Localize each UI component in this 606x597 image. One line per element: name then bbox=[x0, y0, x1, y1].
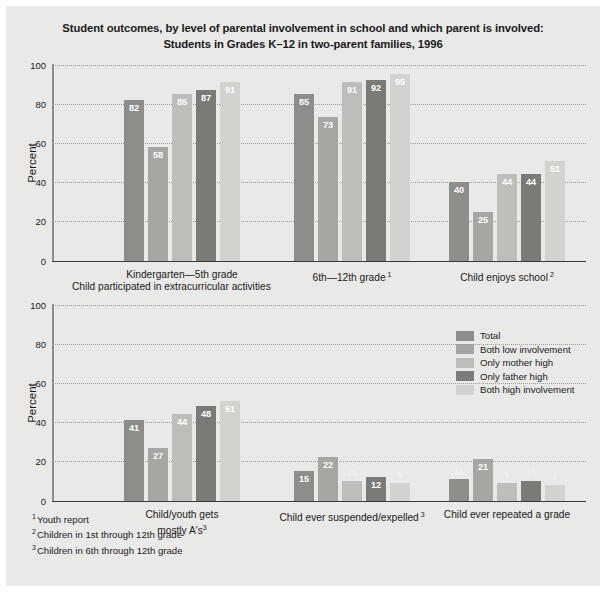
bar-value-label: 51 bbox=[545, 164, 565, 174]
legend-swatch bbox=[456, 385, 474, 395]
legend-label: Total bbox=[480, 330, 500, 341]
bar-value-label: 82 bbox=[124, 103, 144, 113]
y-axis-tick-label: 80 bbox=[35, 338, 46, 349]
bar: 8 bbox=[545, 485, 565, 501]
bar: 9 bbox=[497, 483, 517, 501]
bar-value-label: 21 bbox=[473, 462, 493, 472]
legend-label: Both low involvement bbox=[480, 344, 571, 355]
y-axis-tick-label: 0 bbox=[41, 255, 46, 266]
footnote-list: 1Youth report2Children in 1st through 12… bbox=[32, 511, 432, 557]
bar-value-label: 48 bbox=[196, 409, 216, 419]
bar: 85 bbox=[172, 94, 192, 261]
bar-value-label: 85 bbox=[294, 97, 314, 107]
legend-item: Only father high bbox=[456, 371, 574, 382]
bar-value-label: 12 bbox=[366, 480, 386, 490]
footnote-text: Children in 6th through 12th grade bbox=[37, 545, 183, 556]
bar: 48 bbox=[196, 406, 216, 500]
legend-item: Both low involvement bbox=[456, 344, 574, 355]
chart-legend: TotalBoth low involvementOnly mother hig… bbox=[456, 330, 574, 395]
footnote-marker: 1 bbox=[32, 513, 36, 520]
gridline bbox=[52, 65, 586, 66]
bar: 82 bbox=[124, 100, 144, 261]
x-axis-group-label: Child ever repeated a grade bbox=[444, 508, 570, 521]
bar-value-label: 25 bbox=[473, 215, 493, 225]
x-axis-group-label: 6th—12th grade 1 bbox=[313, 268, 392, 284]
bar: 25 bbox=[473, 212, 493, 261]
figure-page: Student outcomes, by level of parental i… bbox=[6, 6, 600, 586]
bar-value-label: 27 bbox=[148, 451, 168, 461]
footnote-text: Children in 1st through 12th grade bbox=[37, 530, 182, 541]
legend-swatch bbox=[456, 331, 474, 341]
bar-value-label: 41 bbox=[124, 423, 144, 433]
footnote-marker: 2 bbox=[32, 528, 36, 535]
gridline bbox=[52, 383, 586, 384]
x-axis-line-top bbox=[52, 261, 586, 263]
legend-swatch bbox=[456, 358, 474, 368]
bar-value-label: 8 bbox=[545, 472, 565, 482]
bar-value-label: 11 bbox=[449, 466, 469, 476]
footnote-marker: 3 bbox=[32, 544, 36, 551]
bar-value-label: 22 bbox=[318, 460, 338, 470]
bar-value-label: 15 bbox=[294, 474, 314, 484]
y-axis-tick-label: 20 bbox=[35, 456, 46, 467]
y-axis-tick-label: 60 bbox=[35, 377, 46, 388]
bar: 44 bbox=[497, 174, 517, 260]
footnote: 1Youth report bbox=[32, 511, 432, 526]
title-line-1: Student outcomes, by level of parental i… bbox=[6, 20, 600, 36]
y-axis-line-top bbox=[52, 64, 54, 262]
y-axis-tick-label: 60 bbox=[35, 137, 46, 148]
x-axis-group-label: Child enjoys school 2 bbox=[460, 268, 554, 284]
footnote: 2Children in 1st through 12th grade bbox=[32, 526, 432, 541]
y-axis-tick-label: 20 bbox=[35, 216, 46, 227]
y-axis-tick-label: 100 bbox=[30, 59, 46, 70]
y-axis-tick-label: 40 bbox=[35, 417, 46, 428]
bar: 95 bbox=[390, 74, 410, 260]
bar: 51 bbox=[545, 161, 565, 261]
bar: 44 bbox=[521, 174, 541, 260]
bar: 10 bbox=[521, 481, 541, 501]
bar: 22 bbox=[318, 457, 338, 500]
bar-value-label: 9 bbox=[497, 470, 517, 480]
legend-label: Only mother high bbox=[480, 357, 553, 368]
bar: 44 bbox=[172, 414, 192, 500]
bar-value-label: 58 bbox=[148, 150, 168, 160]
chart-panel-bottom: Percent TotalBoth low involvementOnly mo… bbox=[52, 304, 586, 502]
chart-caption: Child participated in extracurricular ac… bbox=[72, 281, 271, 292]
bar-value-label: 85 bbox=[172, 97, 192, 107]
bar: 27 bbox=[148, 448, 168, 501]
y-axis-tick-label: 80 bbox=[35, 98, 46, 109]
legend-item: Total bbox=[456, 330, 574, 341]
legend-swatch bbox=[456, 344, 474, 354]
legend-item: Both high involvement bbox=[456, 384, 574, 395]
title-line-2: Students in Grades K–12 in two-parent fa… bbox=[6, 36, 600, 52]
bar: 51 bbox=[220, 401, 240, 501]
plot-area-top: Percent 0204060801008258858791Kindergart… bbox=[52, 64, 586, 262]
bar-value-label: 91 bbox=[342, 85, 362, 95]
bar-value-label: 44 bbox=[172, 417, 192, 427]
bar-value-label: 44 bbox=[521, 177, 541, 187]
x-axis-group-label: Kindergarten—5th grade bbox=[126, 268, 238, 281]
bar: 87 bbox=[196, 90, 216, 261]
bar-value-label: 51 bbox=[220, 404, 240, 414]
bar: 41 bbox=[124, 420, 144, 500]
bar: 92 bbox=[366, 80, 386, 260]
bar-value-label: 10 bbox=[342, 468, 362, 478]
plot-area-bottom: Percent TotalBoth low involvementOnly mo… bbox=[52, 304, 586, 502]
bar: 21 bbox=[473, 459, 493, 500]
bar-value-label: 91 bbox=[220, 85, 240, 95]
y-axis-tick-label: 100 bbox=[30, 299, 46, 310]
bar: 15 bbox=[294, 471, 314, 500]
gridline bbox=[52, 305, 586, 306]
bar-value-label: 10 bbox=[521, 468, 541, 478]
legend-label: Only father high bbox=[480, 371, 548, 382]
bar-value-label: 92 bbox=[366, 83, 386, 93]
bar-value-label: 44 bbox=[497, 177, 517, 187]
legend-item: Only mother high bbox=[456, 357, 574, 368]
bar: 12 bbox=[366, 477, 386, 501]
chart-panel-top: Percent 0204060801008258858791Kindergart… bbox=[52, 64, 586, 262]
legend-swatch bbox=[456, 371, 474, 381]
footnote: 3Children in 6th through 12th grade bbox=[32, 542, 432, 557]
bar-value-label: 95 bbox=[390, 77, 410, 87]
bar: 11 bbox=[449, 479, 469, 501]
bar: 85 bbox=[294, 94, 314, 261]
